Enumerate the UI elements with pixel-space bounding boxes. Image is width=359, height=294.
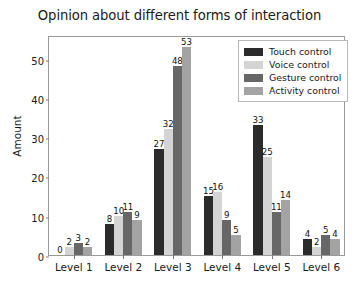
legend-item: Touch control — [244, 45, 341, 58]
x-tick-label: Level 3 — [154, 261, 192, 273]
bar-value-label: 2 — [66, 237, 71, 247]
y-axis-label: Amount — [11, 106, 23, 166]
legend-label: Gesture control — [269, 72, 341, 83]
x-tick-label: Level 4 — [203, 261, 241, 273]
legend-swatch — [244, 87, 263, 95]
bar: 16 — [213, 192, 222, 255]
legend-label: Activity control — [269, 85, 340, 96]
bar: 3 — [74, 243, 83, 255]
bar: 33 — [253, 125, 262, 255]
legend-label: Voice control — [269, 59, 329, 70]
bar-value-label: 14 — [280, 190, 291, 200]
bar: 48 — [173, 66, 182, 255]
bar: 4 — [303, 239, 312, 255]
bar-group: 27324853 — [148, 37, 198, 255]
y-tick-label: 50 — [31, 55, 44, 66]
bar: 4 — [330, 239, 339, 255]
bar-value-label: 33 — [252, 115, 263, 125]
bar: 9 — [132, 220, 141, 255]
bar-value-label: 8 — [107, 214, 112, 224]
x-tick-mark — [272, 255, 273, 259]
bar: 32 — [164, 129, 173, 255]
bar-value-label: 2 — [314, 237, 319, 247]
x-tick-label: Level 1 — [55, 261, 93, 273]
bar: 8 — [105, 224, 114, 255]
x-tick-mark — [173, 255, 174, 259]
legend-label: Touch control — [269, 46, 331, 57]
legend-item: Activity control — [244, 84, 341, 97]
bar: 10 — [114, 216, 123, 255]
y-tick-mark — [46, 257, 50, 258]
bar-value-label: 9 — [134, 210, 139, 220]
x-tick-mark — [123, 255, 124, 259]
chart-figure: Opinion about different forms of interac… — [0, 0, 359, 294]
bar: 2 — [83, 247, 92, 255]
bar: 15 — [204, 196, 213, 255]
x-tick-label: Level 5 — [253, 261, 291, 273]
bar-value-label: 16 — [212, 182, 223, 192]
legend-item: Gesture control — [244, 71, 341, 84]
chart-title: Opinion about different forms of interac… — [0, 8, 359, 23]
y-tick-label: 20 — [31, 173, 44, 184]
bar: 2 — [65, 247, 74, 255]
bar-value-label: 0 — [57, 245, 62, 255]
bar-value-label: 2 — [85, 237, 90, 247]
bar-value-label: 25 — [262, 147, 273, 157]
bar: 27 — [154, 149, 163, 255]
chart-legend: Touch controlVoice controlGesture contro… — [238, 40, 348, 102]
bar: 2 — [312, 247, 321, 255]
x-tick-label: Level 2 — [104, 261, 142, 273]
legend-swatch — [244, 61, 263, 69]
y-tick-label: 30 — [31, 134, 44, 145]
bar-value-label: 4 — [332, 229, 337, 239]
bar-value-label: 53 — [181, 37, 192, 47]
bar: 9 — [222, 220, 231, 255]
bar-group: 810119 — [99, 37, 149, 255]
bar-group: 0232 — [49, 37, 99, 255]
bar: 14 — [281, 200, 290, 255]
bar: 5 — [231, 235, 240, 255]
bar-value-label: 9 — [224, 210, 229, 220]
legend-swatch — [244, 74, 263, 82]
bar-value-label: 3 — [76, 233, 81, 243]
x-tick-mark — [321, 255, 322, 259]
bar-value-label: 11 — [122, 202, 133, 212]
bar-value-label: 4 — [305, 229, 310, 239]
legend-swatch — [244, 48, 263, 56]
bar: 11 — [123, 212, 132, 255]
legend-item: Voice control — [244, 58, 341, 71]
y-tick-label: 40 — [31, 94, 44, 105]
x-tick-mark — [74, 255, 75, 259]
bar: 11 — [272, 212, 281, 255]
y-tick-label: 10 — [31, 212, 44, 223]
bar-value-label: 5 — [233, 225, 238, 235]
x-tick-label: Level 6 — [302, 261, 340, 273]
bar: 5 — [321, 235, 330, 255]
x-tick-mark — [222, 255, 223, 259]
bar: 53 — [182, 47, 191, 255]
y-tick-label: 0 — [38, 252, 44, 263]
bar-value-label: 5 — [323, 225, 328, 235]
